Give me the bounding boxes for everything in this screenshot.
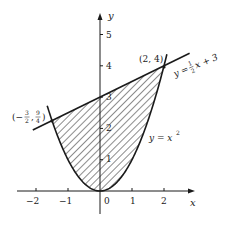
intersection-point-left (50, 119, 53, 122)
line-equation-label: y = 1 2 x + 3 (170, 49, 220, 81)
svg-text:y =: y = (171, 64, 190, 79)
svg-text:): ) (42, 112, 46, 122)
y-tick-label: 1 (106, 154, 112, 164)
x-tick-label: 0 (104, 196, 110, 206)
point-label-left: (− 3 2 , 9 4 ) (12, 109, 46, 124)
x-tick-label: 1 (130, 196, 136, 206)
svg-text:1: 1 (187, 59, 193, 67)
parabola-equation-label: y = x 2 (148, 129, 180, 143)
svg-text:x + 3: x + 3 (193, 52, 219, 70)
svg-text:4: 4 (36, 117, 40, 124)
x-tick-label: 2 (161, 196, 167, 206)
y-tick-label: 2 (106, 123, 112, 133)
svg-text:2: 2 (176, 129, 180, 136)
svg-text:9: 9 (36, 109, 40, 116)
y-tick-label: 4 (106, 61, 112, 71)
x-axis-label: x (190, 197, 196, 208)
y-axis-label: y (107, 10, 114, 21)
intersection-point-right (162, 65, 165, 68)
svg-text:y = x: y = x (148, 133, 172, 143)
svg-text:3: 3 (25, 109, 29, 116)
svg-text:(−: (− (12, 112, 23, 122)
svg-text:2: 2 (25, 117, 29, 124)
svg-text:,: , (31, 112, 34, 122)
point-label-right: (2, 4) (139, 54, 163, 64)
y-axis-arrow-icon (98, 13, 103, 20)
y-tick-label: 5 (106, 30, 112, 40)
y-tick-label: 3 (106, 92, 112, 102)
chart-figure: y x −2 −1 0 1 2 1 2 3 4 5 (2, 4) (− 3 2 … (0, 0, 225, 231)
x-tick-label: −2 (26, 196, 39, 206)
chart-svg: y x −2 −1 0 1 2 1 2 3 4 5 (2, 4) (− 3 2 … (0, 0, 225, 231)
x-tick-label: −1 (59, 196, 72, 206)
x-axis-arrow-icon (188, 189, 195, 194)
